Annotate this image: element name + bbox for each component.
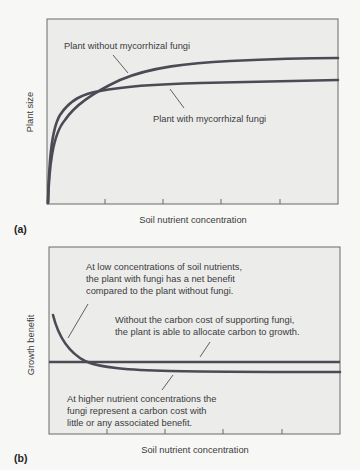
svg-text:Without the carbon cost of sup: Without the carbon cost of supporting fu… <box>115 315 294 325</box>
panel-a-chart: Plant without mycorrhizal fungi Plant wi… <box>14 19 338 235</box>
panel-b-chart: At low concentrations of soil nutrients,… <box>14 247 340 464</box>
svg-text:At higher nutrient concentrati: At higher nutrient concentrations the <box>67 394 216 404</box>
svg-text:the plant with fungi has a net: the plant with fungi has a net benefit <box>86 274 235 284</box>
panel-b-y-axis-label: Growth benefit <box>26 314 36 375</box>
label-without-fungi: Plant without mycorrhizal fungi <box>64 41 190 51</box>
panel-a-y-axis-label: Plant size <box>25 92 35 132</box>
svg-text:compared to the plant without: compared to the plant without fungi. <box>86 286 233 296</box>
panel-b-x-axis-label: Soil nutrient concentration <box>141 445 249 455</box>
svg-text:At low concentrations of soil: At low concentrations of soil nutrients, <box>86 262 242 272</box>
figure-canvas: Plant without mycorrhizal fungi Plant wi… <box>0 0 360 470</box>
svg-text:the plant is able to allocate: the plant is able to allocate carbon to … <box>115 327 300 337</box>
label-with-fungi: Plant with mycorrhizal fungi <box>153 114 266 124</box>
panel-a-tag: (a) <box>14 223 27 235</box>
svg-text:little or any associated benef: little or any associated benefit. <box>67 418 192 428</box>
panel-a-x-axis-label: Soil nutrient concentration <box>139 215 247 225</box>
panel-b-tag: (b) <box>14 452 27 464</box>
note-low-concentration: At low concentrations of soil nutrients,… <box>86 262 242 296</box>
svg-text:fungi represent a carbon cost: fungi represent a carbon cost with <box>67 406 207 416</box>
